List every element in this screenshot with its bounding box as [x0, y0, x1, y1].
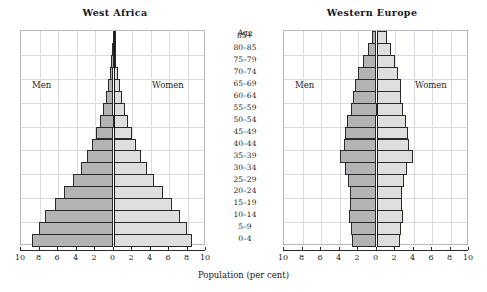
age-group-label: 60–64 — [219, 91, 271, 100]
x-axis-tick — [94, 247, 95, 250]
x-axis-tick — [283, 247, 284, 250]
x-axis-tick — [320, 247, 321, 250]
x-axis-tick — [431, 247, 432, 250]
age-group-label: 40–44 — [219, 139, 271, 148]
x-axis-tick — [76, 247, 77, 250]
gridline-vertical — [303, 31, 304, 244]
age-group-label: 85+ — [219, 31, 271, 40]
age-group-label: 35–39 — [219, 151, 271, 160]
center-axis — [114, 31, 115, 244]
age-group-label: 20–24 — [219, 186, 271, 195]
x-axis-tick-label: 10 — [193, 253, 217, 262]
gridline-vertical — [340, 31, 341, 244]
chart-title-western-europe: Western Europe — [272, 7, 472, 18]
x-axis-tick — [20, 247, 21, 250]
legend-women-west-africa: Women — [152, 80, 184, 90]
x-axis-tick — [376, 247, 377, 250]
bar-men-0-4 — [352, 234, 377, 247]
x-axis-tick — [205, 247, 206, 250]
gridline-vertical — [188, 31, 189, 244]
x-axis-tick — [39, 247, 40, 250]
gridline-vertical — [40, 31, 41, 244]
x-axis-tick — [131, 247, 132, 250]
bar-women-0-4 — [377, 234, 401, 247]
x-axis-tick — [150, 247, 151, 250]
legend-women-western-europe: Women — [415, 80, 447, 90]
gridline-vertical — [451, 31, 452, 244]
plot-area-west-africa — [20, 30, 205, 245]
x-axis-line — [20, 250, 205, 251]
legend-men-west-africa: Men — [32, 80, 51, 90]
age-group-label: 55–59 — [219, 103, 271, 112]
x-axis-tick — [187, 247, 188, 250]
legend-men-western-europe: Men — [295, 80, 314, 90]
x-axis-tick — [339, 247, 340, 250]
bar-men-0-4 — [32, 234, 113, 247]
x-axis-tick — [357, 247, 358, 250]
x-axis-tick — [168, 247, 169, 250]
age-group-label: 65–69 — [219, 79, 271, 88]
age-group-label: 75–79 — [219, 55, 271, 64]
x-axis-tick — [302, 247, 303, 250]
x-axis-line — [283, 250, 468, 251]
age-group-label: 80–85 — [219, 43, 271, 52]
age-group-label: 5–9 — [219, 222, 271, 231]
gridline-vertical — [414, 31, 415, 244]
x-axis-tick-label: 10 — [456, 253, 480, 262]
age-group-label: 25–29 — [219, 175, 271, 184]
x-axis-tick — [113, 247, 114, 250]
age-group-label: 30–34 — [219, 163, 271, 172]
x-axis-tick — [394, 247, 395, 250]
age-group-label: 0–4 — [219, 234, 271, 243]
x-axis-tick — [413, 247, 414, 250]
center-axis — [377, 31, 378, 244]
age-group-label: 45–49 — [219, 127, 271, 136]
plot-area-western-europe — [283, 30, 468, 245]
gridline-vertical — [321, 31, 322, 244]
gridline-vertical — [432, 31, 433, 244]
bar-women-0-4 — [114, 234, 193, 247]
chart-title-west-africa: West Africa — [10, 7, 220, 18]
x-axis-tick — [57, 247, 58, 250]
population-pyramid-figure: West Africa Men Women Age 85+80–8575–797… — [0, 0, 487, 292]
age-group-label: 50–54 — [219, 115, 271, 124]
age-group-label: 15–19 — [219, 198, 271, 207]
age-group-label: 70–74 — [219, 67, 271, 76]
age-group-label: 10–14 — [219, 210, 271, 219]
x-axis-tick — [468, 247, 469, 250]
x-axis-tick — [450, 247, 451, 250]
x-axis-label: Population (per cent) — [0, 270, 487, 280]
